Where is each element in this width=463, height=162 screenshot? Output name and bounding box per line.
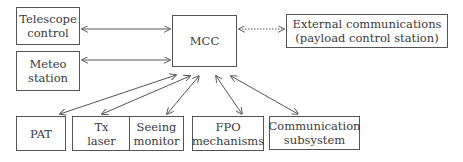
node-label: Seeing xyxy=(137,120,177,134)
node-label: control xyxy=(27,26,69,40)
node-label: Meteo xyxy=(30,57,67,71)
node-label: Communication xyxy=(269,119,361,133)
node-external-communications: External communications (payload control… xyxy=(286,14,448,48)
node-mcc: MCC xyxy=(172,15,237,67)
node-label: station xyxy=(28,71,68,85)
node-pat: PAT xyxy=(16,116,66,151)
node-fpo-mechanisms: FPO mechanisms xyxy=(192,116,264,151)
node-label: FPO xyxy=(215,120,240,134)
node-label: (payload control station) xyxy=(295,31,438,45)
node-communication-subsystem: Communication subsystem xyxy=(269,116,360,150)
node-telescope-control: Telescope control xyxy=(16,7,80,45)
edge-mcc-fpo xyxy=(216,76,242,114)
node-label: mechanisms xyxy=(192,134,264,148)
node-meteo-station: Meteo station xyxy=(16,51,80,91)
node-label: Tx xyxy=(94,120,108,134)
edge-mcc-comm xyxy=(231,76,298,114)
node-label: laser xyxy=(87,134,116,148)
node-label: Telescope xyxy=(19,12,77,26)
node-seeing-monitor: Seeing monitor xyxy=(129,116,184,151)
node-label: subsystem xyxy=(284,133,345,147)
node-label: MCC xyxy=(190,34,219,48)
edge-mcc-seeing xyxy=(167,76,199,114)
node-label: External communications xyxy=(293,17,442,31)
node-tx-laser: Tx laser xyxy=(72,116,131,151)
node-label: monitor xyxy=(134,134,180,148)
node-label: PAT xyxy=(30,127,52,141)
